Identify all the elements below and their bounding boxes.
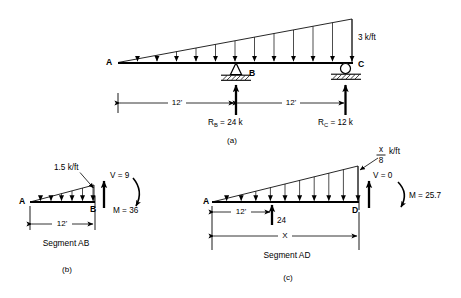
panel-b: A B 1.5 k/ft V = 9 M = 36 12' Segment AB: [19, 163, 139, 274]
dimension-a-bc: 12': [238, 98, 344, 107]
load-units-c: k/ft: [389, 147, 401, 156]
segment-label-c: Segment AD: [263, 250, 310, 260]
dimension-label-b: 12': [57, 219, 68, 228]
structural-diagram-svg: A B C 3 k/ft: [0, 0, 461, 298]
figure-root: A B C 3 k/ft: [0, 0, 461, 298]
interior-force-label-c: 24: [277, 216, 287, 225]
reaction-label-b: RB = 24 k: [208, 118, 244, 128]
svg-text:RC = 12 k: RC = 12 k: [318, 118, 354, 128]
dimension-label-c-12: 12': [236, 207, 247, 216]
load-label-a: 3 k/ft: [358, 33, 376, 42]
svg-text:RB = 24 k: RB = 24 k: [208, 118, 244, 128]
caption-c: (c): [283, 273, 293, 282]
load-numerator-c: x: [379, 145, 383, 154]
load-label-c-fraction: x 8 k/ft: [377, 145, 401, 165]
node-label-a-C: C: [358, 59, 364, 69]
node-label-a-A: A: [106, 57, 112, 67]
shear-label-c: V = 0: [373, 171, 393, 180]
panel-a: A B C 3 k/ft: [106, 19, 376, 145]
node-label-b-A: A: [19, 196, 25, 206]
load-slope-line-b: [30, 185, 94, 202]
moment-arc-c: [398, 182, 404, 207]
load-denominator-c: 8: [379, 156, 384, 165]
dimension-c-12: 12': [214, 207, 270, 216]
reaction-value-c: = 12 k: [330, 118, 353, 127]
moment-label-c: M = 25.7: [409, 191, 442, 200]
reaction-value-b: = 24 k: [220, 118, 243, 127]
segment-label-b: Segment AB: [43, 238, 90, 248]
support-pin-b: [221, 63, 251, 80]
shear-label-b: V = 9: [110, 171, 130, 180]
dimension-label-c-x: X: [282, 231, 288, 240]
dimension-a-ab: 12': [120, 98, 234, 107]
node-label-a-B: B: [249, 68, 255, 78]
dimension-b: 12': [32, 219, 93, 228]
panel-c: A D x 8 k/ft V = 0 M = 25.7 24: [203, 145, 442, 282]
load-arrows-c: [227, 166, 358, 200]
caption-a: (a): [227, 136, 237, 145]
load-arrows-a: [138, 19, 353, 61]
load-label-b: 1.5 k/ft: [54, 163, 79, 172]
node-label-c-A: A: [203, 196, 209, 206]
leader-load-c: [360, 158, 378, 170]
moment-label-b: M = 36: [113, 206, 139, 215]
support-roller-c: [331, 64, 361, 80]
dimension-label-a-ab: 12': [172, 98, 183, 107]
leader-load-b: [80, 173, 94, 189]
dimension-label-a-bc: 12': [286, 98, 297, 107]
moment-arc-b: [133, 178, 139, 206]
node-label-c-D: D: [352, 205, 358, 215]
caption-b: (b): [62, 265, 72, 274]
dimension-c-x: X: [214, 231, 357, 240]
reaction-label-c: RC = 12 k: [318, 118, 354, 128]
